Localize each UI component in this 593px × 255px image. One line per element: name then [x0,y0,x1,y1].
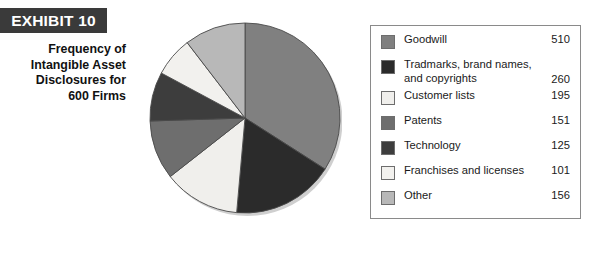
caption-line-3: Disclosures for [0,73,126,89]
legend-swatch-franchises [381,166,395,180]
legend-label-patents: Patents [395,114,546,128]
legend-item-other[interactable]: Other 156 [371,189,580,209]
caption-line-2: Intangible Asset [0,58,126,74]
legend-value-goodwill: 510 [546,33,570,45]
legend-value-other: 156 [546,189,570,201]
caption-line-1: Frequency of [0,42,126,58]
legend-swatch-patents [381,116,395,130]
legend-label-trademarks: Tradmarks, brand names, and copyrights [395,58,546,85]
legend-value-trademarks: 260 [546,73,570,85]
exhibit-caption: Frequency of Intangible Asset Disclosure… [0,42,126,104]
legend-item-technology[interactable]: Technology 125 [371,139,580,159]
legend-item-customer-lists[interactable]: Customer lists 195 [371,89,580,109]
legend-label-customer-lists: Customer lists [395,89,546,103]
legend-value-customer-lists: 195 [546,89,570,101]
exhibit-banner: EXHIBIT 10 [0,8,107,33]
legend-label-trademarks-line2: and copyrights [404,72,477,84]
legend-label-goodwill: Goodwill [395,33,546,47]
legend-value-patents: 151 [546,114,570,126]
legend-item-franchises[interactable]: Franchises and licenses 101 [371,164,580,184]
legend-swatch-customer-lists [381,91,395,105]
pie-chart-svg [148,2,342,234]
legend-swatch-trademarks [381,60,395,74]
chart-legend: Goodwill 510 Tradmarks, brand names, and… [370,25,581,219]
legend-label-trademarks-line1: Tradmarks, brand names, [404,58,532,70]
legend-item-goodwill[interactable]: Goodwill 510 [371,33,580,53]
legend-label-franchises: Franchises and licenses [395,164,546,178]
caption-line-4: 600 Firms [0,89,126,105]
legend-item-patents[interactable]: Patents 151 [371,114,580,134]
legend-item-trademarks[interactable]: Tradmarks, brand names, and copyrights 2… [371,58,580,85]
legend-label-other: Other [395,189,546,203]
legend-swatch-technology [381,141,395,155]
exhibit-figure: EXHIBIT 10 Frequency of Intangible Asset… [0,0,593,255]
legend-value-technology: 125 [546,139,570,151]
legend-value-franchises: 101 [546,164,570,176]
legend-swatch-other [381,191,395,205]
legend-label-technology: Technology [395,139,546,153]
pie-chart [148,2,342,234]
legend-swatch-goodwill [381,35,395,49]
exhibit-banner-label: EXHIBIT 10 [11,12,96,30]
